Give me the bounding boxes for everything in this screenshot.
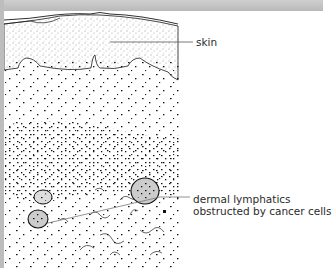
tissue-drawing [4,13,180,268]
lymphatic-vessel-left-upper [34,190,52,204]
lymphatics-label: dermal lymphatics obstructed by cancer c… [193,193,332,217]
lymphatic-vessel-left-lower [28,210,48,228]
lymphatics-label-line1: dermal lymphatics [193,193,332,205]
lymphatics-label-line2: obstructed by cancer cells [193,205,332,217]
skin-label: skin [196,36,217,48]
